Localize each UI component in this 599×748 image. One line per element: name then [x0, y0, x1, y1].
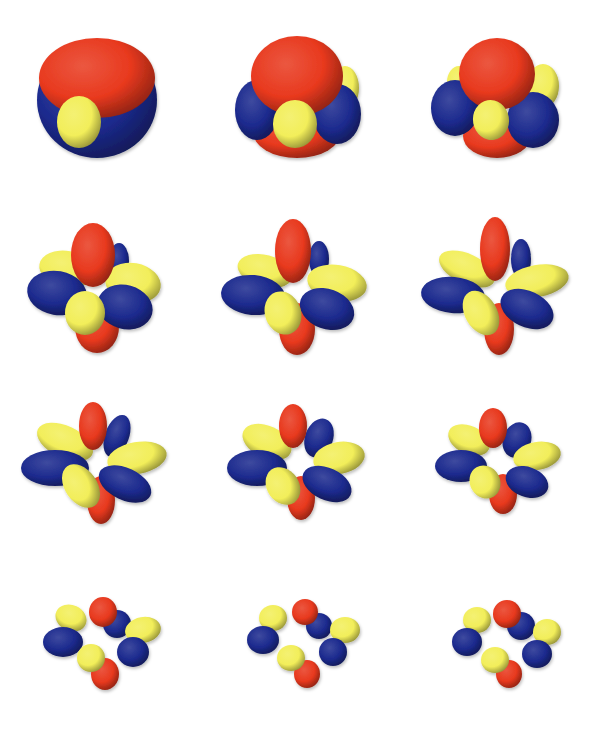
lobe-red — [89, 597, 117, 627]
lobe-red — [79, 402, 107, 450]
figure-cell-lobes-8 — [247, 599, 360, 688]
lobe-yellow — [481, 647, 509, 673]
lobe-red — [279, 404, 307, 448]
figure-cell-lobes-1 — [24, 223, 164, 353]
lobe-blue — [247, 626, 279, 654]
lobe-red — [292, 599, 318, 625]
lobe-yellow — [65, 291, 105, 335]
figure-cell-lobes-5 — [227, 404, 367, 520]
figure-cell-sphere-2 — [235, 36, 361, 158]
lobe-yellow — [57, 96, 101, 148]
lobe-red — [480, 217, 510, 281]
figure-cell-sphere-1 — [37, 38, 157, 158]
lobe-blue — [522, 640, 552, 668]
lobe-red — [39, 38, 155, 118]
figure-cell-lobes-9 — [452, 600, 561, 688]
figure-cell-lobes-7 — [43, 597, 163, 690]
lobe-yellow — [77, 644, 105, 672]
lobe-yellow — [273, 100, 317, 148]
figure-cell-lobes-6 — [435, 408, 563, 514]
lobe-red — [479, 408, 507, 448]
lobe-red — [71, 223, 115, 287]
lobe-red — [275, 219, 311, 283]
figure-cell-sphere-3 — [431, 38, 559, 158]
figure-cell-lobes-2 — [219, 219, 369, 355]
lobe-red — [459, 38, 535, 110]
figure-cell-lobes-4 — [21, 402, 169, 524]
lobe-yellow — [277, 645, 305, 671]
lobe-blue — [319, 638, 347, 666]
lobe-blue — [117, 637, 149, 667]
figure-cell-lobes-3 — [420, 217, 572, 355]
orbital-figure-grid — [0, 0, 599, 748]
lobe-blue — [452, 628, 482, 656]
lobe-blue — [43, 627, 83, 657]
orbital-figure-canvas — [0, 0, 599, 748]
lobe-red — [493, 600, 521, 628]
